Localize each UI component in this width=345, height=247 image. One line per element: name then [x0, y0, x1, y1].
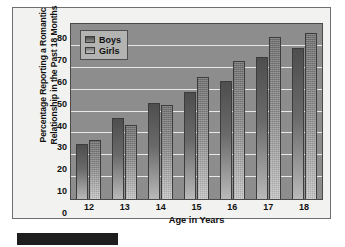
x-axis-tick-label: 15 [182, 202, 212, 212]
x-axis-title: Age in Years [70, 215, 323, 225]
bar-boys-age-15 [184, 92, 196, 199]
legend-item-girls: Girls [85, 45, 121, 56]
bar-girls-age-18 [305, 33, 317, 199]
bar-group-age-18 [286, 24, 322, 199]
y-axis-tick-label: 70 [46, 55, 67, 65]
x-axis-tick-label: 18 [289, 202, 319, 212]
bar-boys-age-18 [292, 48, 304, 199]
y-axis-tick-label: 30 [46, 142, 67, 152]
bar-group-age-15 [179, 24, 215, 199]
y-axis-tick-label: 40 [46, 121, 67, 131]
x-axis-tick-label: 17 [253, 202, 283, 212]
bar-girls-age-13 [125, 125, 137, 199]
bar-boys-age-13 [112, 118, 124, 199]
bar-group-age-14 [143, 24, 179, 199]
y-axis-tick-label: 60 [46, 77, 67, 87]
bar-girls-age-15 [197, 77, 209, 200]
legend-swatch-girls-icon [85, 47, 95, 54]
legend-label-boys: Boys [99, 35, 121, 45]
legend-label-girls: Girls [99, 46, 120, 56]
bar-group-age-16 [214, 24, 250, 199]
bar-boys-age-16 [220, 81, 232, 199]
chart-legend: Boys Girls [80, 30, 128, 60]
bar-girls-age-14 [161, 105, 173, 199]
x-axis-tick-label: 14 [146, 202, 176, 212]
y-axis-tick-label: 50 [46, 99, 67, 109]
redaction-bar [17, 233, 118, 245]
chart-figure-frame: Percentage Reporting a Romantic Relation… [12, 7, 331, 219]
y-axis-tick-label: 20 [46, 164, 67, 174]
bar-boys-age-17 [256, 57, 268, 199]
chart-plot-area: Boys Girls [70, 23, 323, 200]
y-axis-tick-label: 0 [46, 208, 67, 218]
bar-boys-age-14 [148, 103, 160, 199]
x-axis-tick-label: 12 [74, 202, 104, 212]
legend-swatch-boys-icon [85, 36, 95, 43]
bar-girls-age-12 [89, 140, 101, 199]
bar-group-age-17 [250, 24, 286, 199]
bar-girls-age-17 [269, 37, 281, 199]
x-axis-tick-label: 13 [110, 202, 140, 212]
bar-girls-age-16 [233, 61, 245, 199]
x-axis-tick-labels: 12131415161718 [70, 202, 323, 216]
y-axis-tick-label: 80 [46, 33, 67, 43]
legend-item-boys: Boys [85, 34, 121, 45]
y-axis-tick-labels: 01020304050607080 [46, 23, 67, 203]
y-axis-tick-label: 10 [46, 186, 67, 196]
x-axis-tick-label: 16 [217, 202, 247, 212]
bar-boys-age-12 [76, 144, 88, 199]
